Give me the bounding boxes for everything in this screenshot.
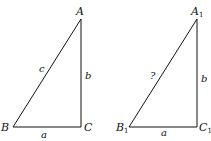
vertex-c-label: C [84, 121, 93, 134]
side-c-label: c [39, 63, 45, 74]
side-unknown-label: ? [150, 70, 156, 81]
triangle-1: A B C c b a [0, 5, 93, 140]
triangle-abc [13, 19, 81, 127]
vertex-a-label: A [75, 5, 84, 18]
side-a1-label: a [161, 127, 167, 138]
side-b-label: b [85, 70, 91, 81]
vertex-a1-label: A1 [190, 5, 203, 19]
side-a-label: a [41, 129, 47, 140]
vertex-c1-label: C1 [199, 121, 211, 135]
triangle-2: A1 B1 C1 ? b a [115, 5, 211, 138]
side-b1-label: b [201, 73, 207, 84]
triangle-a1b1c1 [129, 19, 197, 127]
vertex-b-label: B [0, 121, 9, 134]
congruent-triangles-diagram: A B C c b a A1 B1 C1 ? b a [0, 0, 211, 141]
vertex-b1-label: B1 [115, 121, 129, 135]
